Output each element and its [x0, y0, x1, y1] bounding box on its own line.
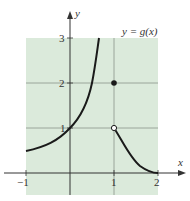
tick-label-x2: 2: [154, 176, 160, 188]
tick-label-x-neg1: −1: [17, 176, 29, 188]
plot-background: [26, 38, 158, 195]
tick-label-y2: 2: [59, 77, 65, 89]
filled-point-1-2: [111, 80, 117, 86]
x-axis-arrow-icon: [178, 170, 186, 176]
open-point-1-1: [111, 125, 116, 130]
function-label: y = g(x): [121, 25, 158, 38]
x-axis-label: x: [177, 156, 183, 168]
tick-label-y3: 3: [59, 32, 65, 44]
graph-g-of-x: y x y = g(x) −1 1 2 3 2 1: [0, 0, 190, 201]
tick-label-y1: 1: [60, 122, 66, 134]
tick-label-x1: 1: [111, 176, 117, 188]
y-axis-label: y: [74, 7, 80, 19]
y-axis-arrow-icon: [67, 11, 73, 19]
